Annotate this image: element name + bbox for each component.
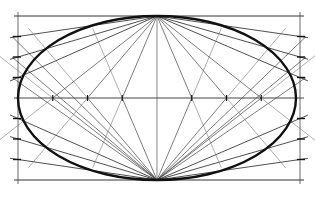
ray-extension — [261, 98, 315, 168]
ray-top-axis — [157, 16, 227, 98]
ray-top — [10, 16, 157, 59]
ray-top — [157, 16, 308, 81]
ray-bottom-axis — [53, 98, 157, 180]
ray-bottom — [157, 115, 308, 180]
ellipse-construction-diagram — [0, 0, 315, 204]
ray-top — [10, 16, 157, 81]
ray-bottom-axis — [88, 98, 158, 180]
ray-top — [10, 16, 157, 38]
ray-top — [157, 16, 308, 38]
ray-top-axis — [53, 16, 157, 98]
ray-bottom — [157, 78, 306, 181]
bounding-rectangle — [14, 12, 304, 184]
ray-extension — [0, 98, 53, 168]
ray-top-axis — [122, 16, 157, 98]
ray-top — [157, 16, 308, 59]
ray-top-axis — [88, 16, 158, 98]
ray-bottom — [10, 115, 157, 180]
